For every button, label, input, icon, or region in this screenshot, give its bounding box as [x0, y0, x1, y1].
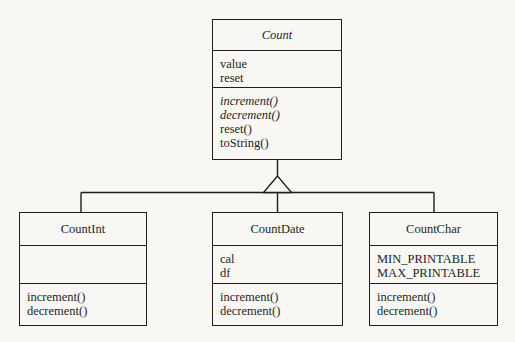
attribute-label: value — [220, 57, 337, 71]
methods-compartment: increment() decrement() — [370, 284, 497, 325]
class-title-compartment: Count — [213, 20, 341, 51]
method-label: reset() — [220, 122, 337, 136]
attributes-compartment-empty — [20, 246, 146, 284]
attributes-compartment: MIN_PRINTABLE MAX_PRINTABLE — [370, 246, 497, 284]
class-name-countchar: CountChar — [406, 222, 461, 236]
class-box-countdate: CountDate cal df increment() decrement() — [212, 212, 343, 326]
class-box-countchar: CountChar MIN_PRINTABLE MAX_PRINTABLE in… — [369, 212, 498, 326]
attributes-compartment: cal df — [213, 246, 342, 284]
class-title-compartment: CountInt — [20, 213, 146, 246]
method-label-abstract: increment() — [220, 94, 337, 108]
class-title-compartment: CountDate — [213, 213, 342, 246]
class-title-compartment: CountChar — [370, 213, 497, 246]
attribute-label: MAX_PRINTABLE — [377, 266, 493, 280]
class-box-count: Count value reset increment() decrement(… — [212, 19, 342, 160]
method-label: decrement() — [377, 304, 493, 318]
method-label: decrement() — [220, 304, 338, 318]
generalization-triangle-icon — [264, 176, 292, 193]
attribute-label: df — [220, 266, 338, 280]
method-label: increment() — [27, 290, 142, 304]
attribute-label: MIN_PRINTABLE — [377, 252, 493, 266]
method-label: toString() — [220, 136, 337, 150]
method-label: decrement() — [27, 304, 142, 318]
class-box-countint: CountInt increment() decrement() — [19, 212, 147, 326]
uml-class-diagram: Count value reset increment() decrement(… — [0, 0, 515, 342]
class-name-countint: CountInt — [61, 222, 105, 236]
attribute-label: cal — [220, 252, 338, 266]
class-name-countdate: CountDate — [250, 222, 304, 236]
methods-compartment: increment() decrement() — [20, 284, 146, 325]
method-label: increment() — [220, 290, 338, 304]
methods-compartment: increment() decrement() — [213, 284, 342, 325]
method-label-abstract: decrement() — [220, 108, 337, 122]
method-label: increment() — [377, 290, 493, 304]
attributes-compartment: value reset — [213, 51, 341, 88]
methods-compartment: increment() decrement() reset() toString… — [213, 88, 341, 159]
class-name-count: Count — [262, 28, 293, 42]
attribute-label: reset — [220, 71, 337, 85]
